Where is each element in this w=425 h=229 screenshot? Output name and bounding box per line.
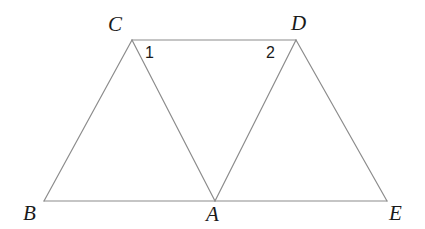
segment-DE <box>296 40 387 201</box>
vertex-label-A: A <box>206 204 219 225</box>
segment-CA <box>132 40 215 201</box>
angle-label-2: 2 <box>266 45 275 61</box>
segment-BC <box>44 40 132 201</box>
vertex-label-C: C <box>108 14 122 35</box>
segment-AD <box>215 40 296 201</box>
segments-group <box>44 40 387 201</box>
angle-label-1: 1 <box>145 45 154 61</box>
geometry-figure: C D B A E 1 2 <box>0 0 425 229</box>
vertex-label-E: E <box>389 203 402 224</box>
vertex-label-B: B <box>23 203 36 224</box>
vertex-label-D: D <box>291 13 306 34</box>
figure-canvas <box>0 0 425 229</box>
